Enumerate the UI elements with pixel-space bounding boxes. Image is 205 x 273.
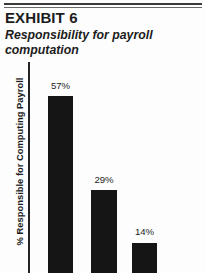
bar-2 (91, 190, 117, 273)
bar-2-value-label: 29% (83, 174, 125, 185)
header-rule-thin (4, 7, 202, 8)
y-axis-line (28, 62, 30, 273)
y-axis-label: % Responsible for Computing Payroll (14, 57, 25, 267)
bar-chart: % Responsible for Computing Payroll 57% … (0, 60, 205, 273)
bar-3-value-label: 14% (124, 226, 165, 237)
exhibit-title: EXHIBIT 6 (5, 9, 78, 26)
bar-3 (132, 243, 157, 273)
header-rule-thick (4, 3, 202, 5)
exhibit-subtitle: Responsibility for payroll computation (5, 28, 190, 57)
bar-1 (48, 96, 73, 273)
exhibit-page: EXHIBIT 6 Responsibility for payroll com… (0, 0, 205, 273)
bar-1-value-label: 57% (40, 80, 81, 91)
